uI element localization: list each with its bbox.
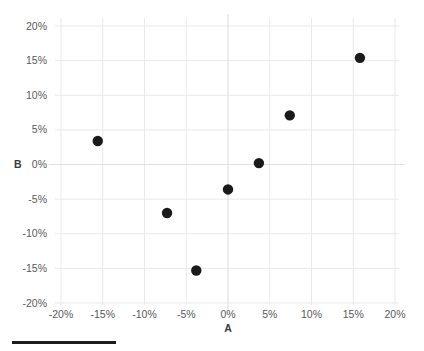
y-tick-label: -10% bbox=[22, 227, 47, 239]
data-point bbox=[191, 265, 201, 275]
x-tick-label: -10% bbox=[132, 308, 157, 320]
x-tick-label: 5% bbox=[262, 308, 277, 320]
x-tick-label: -5% bbox=[177, 308, 196, 320]
y-tick-label: 5% bbox=[32, 123, 47, 135]
data-point bbox=[162, 208, 172, 218]
gridlines bbox=[55, 18, 399, 305]
x-tick-label: -15% bbox=[90, 308, 115, 320]
y-tick-label: -20% bbox=[22, 297, 47, 309]
x-axis-title: A bbox=[224, 322, 232, 334]
y-tick-label: -5% bbox=[28, 193, 47, 205]
y-tick-label: 10% bbox=[26, 89, 47, 101]
plot-area: -20%-15%-10%-5%0%5%10%15%20% 20%15%10%5%… bbox=[0, 0, 424, 351]
y-axis-title: B bbox=[14, 158, 22, 170]
x-axis-tick-labels: -20%-15%-10%-5%0%5%10%15%20% bbox=[49, 308, 406, 320]
y-axis-tick-labels: 20%15%10%5%0%-5%-10%-15%-20% bbox=[22, 20, 47, 309]
y-tick-label: 15% bbox=[26, 54, 47, 66]
x-tick-label: 0% bbox=[220, 308, 235, 320]
x-tick-label: 10% bbox=[301, 308, 322, 320]
data-point bbox=[355, 53, 365, 63]
x-tick-label: 20% bbox=[384, 308, 405, 320]
data-point bbox=[223, 184, 233, 194]
data-point bbox=[254, 158, 264, 168]
scatter-chart: -20%-15%-10%-5%0%5%10%15%20% 20%15%10%5%… bbox=[0, 0, 424, 351]
y-tick-label: -15% bbox=[22, 262, 47, 274]
x-tick-label: 15% bbox=[343, 308, 364, 320]
bottom-rule bbox=[12, 341, 116, 344]
y-tick-label: 20% bbox=[26, 20, 47, 32]
y-tick-label: 0% bbox=[32, 158, 47, 170]
data-point bbox=[93, 136, 103, 146]
data-point bbox=[285, 110, 295, 120]
x-tick-label: -20% bbox=[49, 308, 74, 320]
